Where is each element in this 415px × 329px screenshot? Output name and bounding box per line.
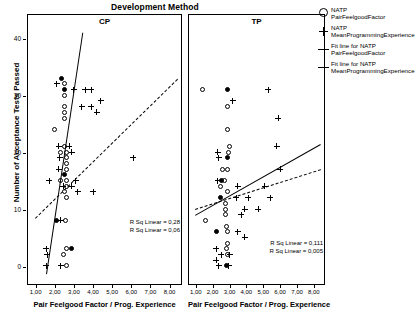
data-point-circle — [52, 127, 57, 132]
x-axis-tick-mark — [314, 285, 315, 288]
data-point-plus — [79, 104, 85, 110]
x-axis-tick-mark — [170, 285, 171, 288]
data-point-circle — [203, 218, 208, 223]
data-point-circle — [64, 167, 69, 172]
x-axis-tick-mark — [112, 285, 113, 288]
data-point-plus — [242, 234, 248, 240]
data-point-circle-filled — [62, 87, 67, 92]
fit-line-dashed — [195, 169, 321, 210]
data-point-plus — [46, 178, 52, 184]
data-point-circle — [64, 161, 69, 166]
data-point-circle-filled — [214, 229, 219, 234]
legend-label-line1: Fit line for NATP — [331, 42, 385, 49]
data-point-plus — [265, 87, 271, 93]
data-point-plus — [98, 98, 104, 104]
data-point-plus — [44, 252, 50, 258]
data-point-plus — [233, 195, 239, 201]
y-axis-tick-mark — [23, 96, 26, 97]
data-point-circle — [223, 212, 228, 217]
data-point-circle-filled — [69, 246, 74, 251]
data-point-circle — [64, 195, 69, 200]
legend-item-0[interactable]: NATPPairFeelgoodFactor — [318, 6, 414, 21]
data-point-circle-filled — [218, 195, 223, 200]
y-axis-tick-label: 20 — [5, 149, 21, 156]
x-axis-tick-mark — [263, 285, 264, 288]
x-axis-tick-mark — [131, 285, 132, 288]
data-point-circle — [64, 263, 69, 268]
panel-header-cp: CP — [27, 14, 182, 27]
data-point-circle — [62, 189, 67, 194]
y-axis-tick-mark — [23, 153, 26, 154]
legend-item-3[interactable]: Fit line for NATPMeanProgrammingExperien… — [318, 60, 414, 75]
data-point-plus — [90, 189, 96, 195]
data-point-circle — [225, 189, 230, 194]
x-axis-tick-mark — [55, 285, 56, 288]
data-point-plus — [227, 252, 233, 258]
legend-label: NATPMeanProgrammingExperience — [331, 24, 415, 39]
y-axis-tick-label: 40 — [5, 35, 21, 42]
y-axis-tick-mark — [23, 267, 26, 268]
data-point-plus — [75, 189, 81, 195]
data-point-plus — [230, 98, 236, 104]
data-point-circle — [223, 207, 228, 212]
x-axis-tick-mark — [74, 285, 75, 288]
legend-item-2[interactable]: Fit line for NATPPairFeelgoodFactor — [318, 42, 414, 57]
x-axis-tick-mark — [280, 285, 281, 288]
legend-label-line1: Fit line for NATP — [331, 60, 415, 67]
data-point-plus — [235, 183, 241, 189]
data-point-circle — [225, 229, 230, 234]
x-axis-tick-mark — [246, 285, 247, 288]
legend-label-line2: MeanProgrammingExperience — [331, 31, 415, 38]
x-axis-tick-mark — [213, 285, 214, 288]
data-point-plus — [255, 206, 261, 212]
data-point-plus — [57, 155, 63, 161]
data-point-circle — [225, 167, 230, 172]
data-point-circle-filled — [59, 76, 64, 81]
data-point-plus — [88, 87, 94, 93]
data-point-circle — [225, 104, 230, 109]
data-point-plus — [275, 115, 281, 121]
data-point-circle — [225, 127, 230, 132]
legend-symbol-glyph — [319, 8, 328, 17]
legend-symbol-glyph — [318, 67, 329, 68]
x-axis-tick-mark — [196, 285, 197, 288]
data-point-circle — [62, 104, 67, 109]
data-point-plus — [71, 87, 77, 93]
data-point-circle — [63, 218, 68, 223]
legend-label-line1: NATP — [331, 24, 415, 31]
legend-label: Fit line for NATPPairFeelgoodFactor — [331, 42, 385, 57]
data-point-plus — [69, 149, 75, 155]
y-axis-tick-label: 0 — [5, 263, 21, 270]
legend-label: NATPPairFeelgoodFactor — [331, 6, 385, 21]
data-point-circle — [223, 201, 228, 206]
panel-header-tp: TP — [188, 14, 325, 27]
rsq-value: R Sq Linear = 0,28 — [130, 219, 180, 227]
legend-item-1[interactable]: NATPMeanProgrammingExperience — [318, 24, 414, 39]
x-axis-tick-mark — [230, 285, 231, 288]
data-point-plus — [277, 166, 283, 172]
legend-label: Fit line for NATPMeanProgrammingExperien… — [331, 60, 415, 75]
data-point-plus — [60, 183, 66, 189]
data-point-circle — [218, 184, 223, 189]
plot-area-cp — [27, 27, 182, 285]
data-point-plus — [245, 195, 251, 201]
data-point-plus — [262, 183, 268, 189]
legend-symbol-glyph — [319, 27, 328, 36]
data-point-plus — [130, 155, 136, 161]
data-point-circle-filled — [219, 178, 224, 183]
data-point-plus — [58, 263, 64, 269]
legend-line-icon — [318, 42, 331, 57]
rsq-annotation-cp: R Sq Linear = 0,28R Sq Linear = 0,06 — [130, 219, 180, 234]
data-point-plus — [216, 155, 222, 161]
data-point-plus — [238, 212, 244, 218]
legend-circle-icon — [318, 6, 331, 21]
x-axis-tick-mark — [297, 285, 298, 288]
y-axis-tick-label: 30 — [5, 92, 21, 99]
y-axis-label: Number of Acceptance Tests Passed — [12, 43, 21, 223]
x-axis-label: Pair Feelgood Factor / Prog. Experience — [27, 300, 182, 309]
data-point-circle — [62, 93, 67, 98]
data-point-circle-filled — [225, 87, 230, 92]
data-point-circle — [64, 246, 69, 251]
x-axis-tick-mark — [93, 285, 94, 288]
